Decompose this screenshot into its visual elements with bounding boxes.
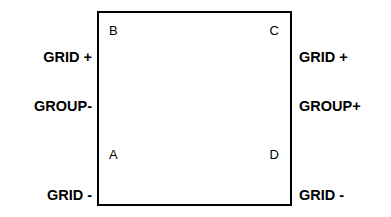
corner-letter-top-left: B xyxy=(109,24,118,37)
quadrant-square: B C A D xyxy=(97,11,292,206)
corner-letter-bottom-left: A xyxy=(109,148,118,161)
quadrant-label-bottom-left: GRID - GROUP- xyxy=(34,155,92,217)
grid-group-diagram: GRID + GROUP- GRID + GROUP+ GRID - GROUP… xyxy=(0,0,391,217)
corner-letter-bottom-right: D xyxy=(269,148,279,161)
quadrant-label-top-left-group: GROUP- xyxy=(34,98,92,114)
quadrant-label-top-right-grid: GRID + xyxy=(299,49,361,65)
quadrant-label-bottom-left-grid: GRID - xyxy=(34,187,92,203)
quadrant-label-top-right: GRID + GROUP+ xyxy=(299,17,361,147)
quadrant-label-top-left-grid: GRID + xyxy=(34,49,92,65)
quadrant-label-bottom-right: GRID - GROUP+ xyxy=(299,155,361,217)
quadrant-label-bottom-right-grid: GRID - xyxy=(299,187,361,203)
corner-letter-top-right: C xyxy=(269,24,279,37)
quadrant-label-top-right-group: GROUP+ xyxy=(299,98,361,114)
quadrant-label-top-left: GRID + GROUP- xyxy=(34,17,92,147)
